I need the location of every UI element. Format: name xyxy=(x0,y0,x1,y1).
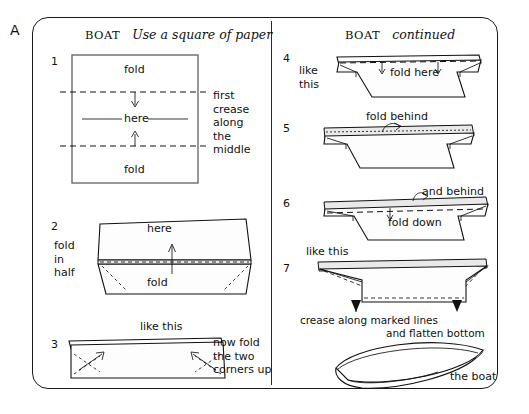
step-2-here-label: here xyxy=(147,222,172,236)
right-header-title: BOAT xyxy=(345,28,380,42)
boat-inner-rim xyxy=(338,348,478,369)
step-7-diagram xyxy=(310,256,500,316)
left-header-title: BOAT xyxy=(85,28,120,42)
final-boat-caption: the boat xyxy=(450,370,496,384)
step-7-right-arrow-head-icon xyxy=(452,300,462,312)
step-4-side-note: like this xyxy=(299,64,319,91)
final-boat-diagram xyxy=(318,336,498,392)
step-7-crease-label: crease along marked lines xyxy=(300,314,438,328)
step-1-fold-bottom-label: fold xyxy=(124,163,145,177)
step-7-left-arrow-head-icon xyxy=(351,300,361,312)
step-1-here-label: here xyxy=(124,112,149,126)
step-4-fold-here-label: fold here xyxy=(390,66,439,80)
step-6-number: 6 xyxy=(283,197,290,210)
step-7-number: 7 xyxy=(283,262,290,275)
step-1-fold-top-label: fold xyxy=(124,63,145,77)
step-1-side-note: first crease along the middle xyxy=(213,89,251,157)
step-5-number: 5 xyxy=(283,122,290,135)
step-5-diagram xyxy=(320,122,490,176)
upper-flap xyxy=(98,219,251,260)
step-3-diagram xyxy=(66,332,236,388)
step-2-diagram xyxy=(96,216,256,298)
step-3-side-note: now fold the two corners up xyxy=(213,336,272,377)
step-2-side-note: fold in half xyxy=(54,239,75,280)
page-spine-divider xyxy=(271,21,272,385)
figure-label: A xyxy=(10,22,20,38)
step-4-diagram xyxy=(334,52,494,110)
step-6-fold-down-label: fold down xyxy=(388,216,442,230)
left-header-subtitle: Use a square of paper xyxy=(132,27,272,42)
right-page-header: BOAT continued xyxy=(345,24,455,43)
step-5-body xyxy=(324,133,474,168)
lower-flap xyxy=(98,264,251,294)
right-header-subtitle: continued xyxy=(392,27,455,42)
step-7-body xyxy=(319,266,487,302)
step-2-number: 2 xyxy=(51,220,58,233)
step-2-fold-label: fold xyxy=(147,276,168,290)
step-3-number: 3 xyxy=(51,338,58,351)
step-1-number: 1 xyxy=(51,55,58,68)
diagram-root: A BOAT Use a square of paper 1 fold here… xyxy=(0,0,529,414)
left-page-header: BOAT Use a square of paper xyxy=(85,24,272,43)
step-4-number: 4 xyxy=(283,52,290,65)
